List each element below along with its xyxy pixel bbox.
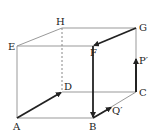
label-H: H bbox=[56, 16, 65, 27]
label-F: F bbox=[90, 47, 97, 58]
vector-BQ bbox=[93, 108, 111, 119]
label-C: C bbox=[139, 87, 147, 98]
label-E: E bbox=[8, 41, 15, 52]
label-D: D bbox=[64, 81, 72, 92]
label-Q: Q′ bbox=[112, 105, 123, 116]
label-B: B bbox=[89, 121, 96, 132]
label-P: P′ bbox=[139, 55, 149, 66]
label-G: G bbox=[139, 22, 147, 33]
vector-GF bbox=[94, 28, 136, 46]
cube-diagram: H G E F P′ D C Q′ A B bbox=[0, 0, 150, 140]
edge-EH bbox=[17, 28, 62, 46]
vector-AD bbox=[17, 93, 61, 119]
label-A: A bbox=[12, 121, 21, 132]
